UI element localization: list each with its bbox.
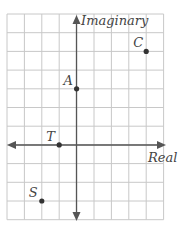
point-a — [74, 86, 79, 91]
imaginary-axis-up-arrow-icon — [73, 15, 81, 24]
real-axis-left-arrow-icon — [7, 141, 16, 149]
point-label-c: C — [133, 35, 143, 50]
point-t — [57, 142, 62, 147]
points: ACTS — [29, 35, 149, 203]
point-label-s: S — [29, 185, 38, 200]
real-axis-right-arrow-icon — [157, 141, 166, 149]
point-label-t: T — [46, 129, 56, 144]
point-c — [144, 49, 149, 54]
point-s — [39, 198, 44, 203]
real-axis-label: Real — [147, 150, 177, 165]
imaginary-axis-label: Imaginary — [80, 13, 149, 28]
point-label-a: A — [63, 73, 73, 88]
complex-plane: Imaginary Real ACTS — [0, 0, 187, 233]
